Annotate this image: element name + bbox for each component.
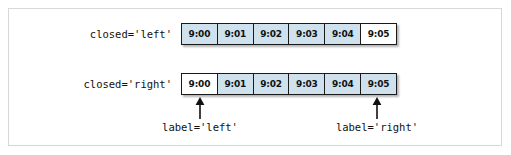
- bin-cell: 9:05: [361, 74, 396, 94]
- bin-cell: 9:01: [218, 74, 254, 94]
- bin-cell: 9:04: [325, 74, 361, 94]
- row-label-closed-left: closed='left': [20, 28, 172, 40]
- bin-cell: 9:03: [289, 24, 325, 44]
- annotation-label-right: label='right': [317, 121, 437, 133]
- resample-interval-diagram: closed='left' 9:00 9:01 9:02 9:03 9:04 9…: [0, 0, 511, 155]
- bin-cell: 9:00: [182, 24, 218, 44]
- arrow-up-icon-label-left: [194, 97, 206, 119]
- bin-cell: 9:00: [182, 74, 218, 94]
- bin-cell: 9:04: [325, 24, 361, 44]
- bin-cell: 9:02: [254, 74, 290, 94]
- arrow-up-icon-label-right: [371, 97, 383, 119]
- annotation-label-left: label='left': [140, 121, 260, 133]
- bin-cell: 9:03: [289, 74, 325, 94]
- bin-cell: 9:02: [254, 24, 290, 44]
- bin-table-closed-left: 9:00 9:01 9:02 9:03 9:04 9:05: [181, 23, 397, 45]
- bin-cell: 9:05: [361, 24, 396, 44]
- bin-cell: 9:01: [218, 24, 254, 44]
- row-label-closed-right: closed='right': [20, 78, 172, 90]
- bin-table-closed-right: 9:00 9:01 9:02 9:03 9:04 9:05: [181, 73, 397, 95]
